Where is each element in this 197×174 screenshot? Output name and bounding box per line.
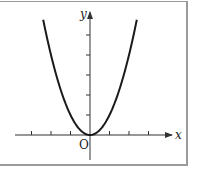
y-ticks bbox=[86, 35, 90, 115]
y-axis-label: y bbox=[79, 7, 87, 21]
parabola-plot: x y O bbox=[0, 0, 197, 174]
origin-label: O bbox=[79, 138, 89, 152]
x-axis-label: x bbox=[175, 128, 182, 142]
